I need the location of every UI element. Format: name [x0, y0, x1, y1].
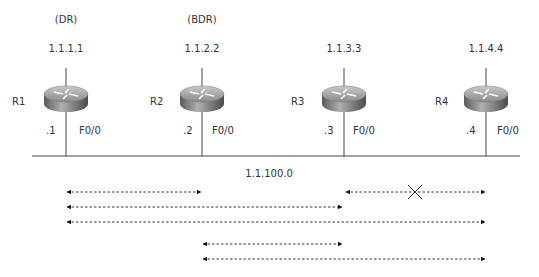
router-icon-r4	[464, 86, 508, 112]
router-icon-r1	[44, 86, 88, 112]
router-icon-r3	[322, 86, 366, 112]
router-icon-r2	[180, 86, 224, 112]
topology-canvas	[0, 0, 539, 277]
